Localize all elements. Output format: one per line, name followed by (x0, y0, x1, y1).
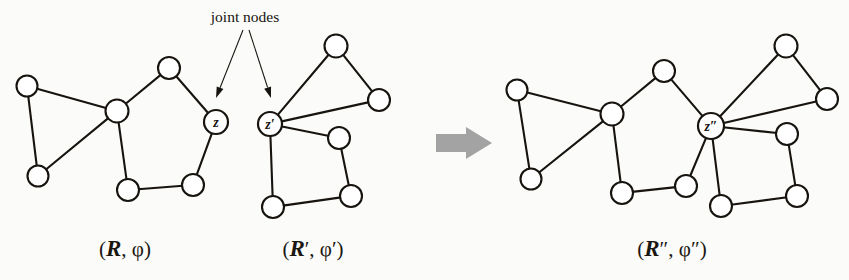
edge-z2-bl2 (270, 135, 272, 197)
arrow-to-zprime-shaft (249, 30, 268, 88)
caption-graph-R-double-prime: (R″, φ″) (637, 236, 706, 261)
node-rr2[interactable] (816, 88, 838, 110)
edge-bl2-br2 (283, 197, 341, 205)
node-mr2[interactable] (776, 123, 798, 145)
edge-hub-bl (118, 121, 126, 180)
joint-node-label-z: z (212, 115, 219, 130)
node-bl3[interactable] (611, 182, 633, 204)
edge-t2-rr2 (792, 54, 820, 91)
edge-b2-hub2 (538, 121, 603, 173)
figure-container: zz′z″ joint nodes (R, φ)(R′, φ′)(R″, φ″) (0, 0, 849, 280)
merge-arrow-layer (436, 127, 492, 159)
edge-mr-br2 (341, 148, 349, 186)
node-top2[interactable] (653, 60, 675, 82)
edge-z2-rr (281, 102, 369, 121)
merge-arrow (436, 127, 492, 159)
joint-node-label-zz: z″ (703, 119, 717, 134)
edge-b1-b2 (518, 99, 529, 169)
edge-a1-hub (36, 89, 107, 109)
node-b2[interactable] (521, 169, 542, 190)
edge-bl-br (138, 186, 183, 189)
node-br2[interactable] (340, 185, 362, 207)
edge-hub2-top2 (620, 77, 656, 107)
arrow-to-z-head (216, 86, 223, 98)
joint-node-label-z2: z′ (264, 117, 274, 132)
node-br3[interactable] (675, 175, 697, 197)
node-bll[interactable] (710, 195, 732, 217)
edge-top-z (176, 76, 209, 114)
edge-bll-brr (731, 197, 787, 204)
node-hub[interactable] (106, 100, 129, 123)
edge-hub-top (125, 74, 161, 104)
node-rr[interactable] (368, 89, 390, 111)
edge-top2-zz (671, 79, 704, 117)
edge-z2-mr (281, 126, 329, 136)
node-top[interactable] (158, 57, 180, 79)
captions-layer: (R, φ)(R′, φ′)(R″, φ″) (99, 236, 707, 261)
caption-graph-R: (R, φ) (99, 236, 151, 261)
edge-hub2-bl3 (613, 124, 620, 183)
node-t2[interactable] (775, 35, 798, 58)
edge-bl3-br3 (632, 187, 676, 192)
node-t[interactable] (325, 35, 348, 58)
node-mr[interactable] (328, 127, 350, 149)
nodes-graph-R-prime: z′ (258, 35, 390, 219)
node-bl2[interactable] (262, 196, 284, 218)
edge-br3-zz (690, 137, 707, 177)
edge-zz-rr2 (723, 101, 818, 123)
edge-mr2-brr (789, 144, 796, 186)
node-brr[interactable] (786, 185, 808, 207)
annotation-layer: joint nodes (210, 8, 279, 98)
node-bl[interactable] (117, 179, 139, 201)
caption-graph-R-prime: (R′, φ′) (282, 236, 343, 261)
edges-graph-R (28, 74, 212, 189)
edge-zz-t2 (719, 54, 779, 118)
arrow-to-zprime-head (264, 86, 271, 98)
nodes-graph-R: z (17, 57, 229, 201)
arrow-to-z-shaft (220, 30, 243, 88)
edges-graph-R-prime (270, 54, 372, 206)
edge-zz-mr2 (723, 127, 777, 133)
edge-br-z (196, 132, 212, 175)
node-hub2[interactable] (601, 103, 624, 126)
nodes-graph-R-double-prime: z″ (507, 35, 839, 218)
nodes-layer: zz′z″ (17, 35, 839, 219)
edge-t-rr (343, 54, 373, 92)
node-a1[interactable] (17, 76, 38, 97)
node-a2[interactable] (28, 166, 49, 187)
edge-b1-hub2 (526, 92, 602, 111)
figure-canvas: zz′z″ joint nodes (R, φ)(R′, φ′)(R″, φ″) (0, 0, 849, 280)
edge-zz-bll (712, 138, 719, 196)
edge-a2-hub (45, 118, 109, 170)
node-b1[interactable] (507, 80, 528, 101)
joint-nodes-label: joint nodes (210, 8, 279, 25)
edge-z2-t (277, 54, 329, 116)
node-br[interactable] (182, 174, 204, 196)
edge-a1-a2 (28, 95, 37, 166)
